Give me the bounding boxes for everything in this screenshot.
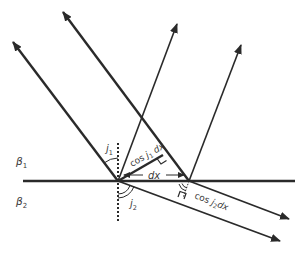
right-angle-marker-refracted (178, 192, 186, 200)
incident-ray-2 (63, 12, 189, 181)
transmitted-ray-2 (118, 181, 280, 241)
angle-arc-j2-inner (118, 186, 130, 195)
medium-label-beta1: β1 (15, 155, 27, 170)
reflected-ray-2 (189, 45, 241, 181)
angle-label-j2: j2 (128, 198, 137, 212)
angle-arc-j1 (104, 158, 118, 163)
refraction-diagram: β1 β2 j1 j2 dx cos j1 dx cos j2dx (0, 0, 301, 254)
angle-arc-j2 (118, 187, 134, 199)
refracted-wavefront-line (183, 181, 189, 198)
angle-label-j1: j1 (104, 143, 113, 157)
right-angle-marker-incident (157, 159, 167, 165)
dx-label: dx (148, 170, 160, 181)
angle-arc-right-inner (182, 184, 187, 189)
medium-label-beta2: β2 (15, 195, 27, 210)
